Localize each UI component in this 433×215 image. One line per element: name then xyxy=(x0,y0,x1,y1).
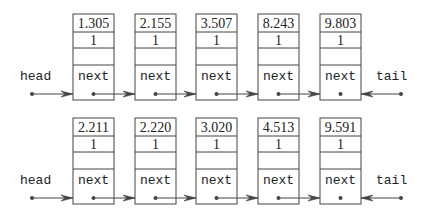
node-count: 1 xyxy=(337,137,344,152)
node-count: 1 xyxy=(275,33,282,48)
node-next-label: next xyxy=(140,69,171,84)
node-next-label: next xyxy=(325,69,356,84)
list-node: 8.2431next xyxy=(258,14,320,100)
node-count: 1 xyxy=(337,33,344,48)
next-pointer-dot xyxy=(339,196,343,200)
list-node: 2.1551next xyxy=(135,14,196,100)
node-value: 9.803 xyxy=(325,16,357,31)
list-node: 4.5131next xyxy=(258,118,320,204)
node-value: 9.591 xyxy=(325,120,357,135)
linked-lists-diagram: head1.3051next2.1551next3.5071next8.2431… xyxy=(0,0,433,215)
node-next-label: next xyxy=(201,69,232,84)
list-node: 9.8031next xyxy=(320,14,361,100)
node-next-label: next xyxy=(263,173,294,188)
node-next-label: next xyxy=(263,69,294,84)
list-node: 1.3051next xyxy=(73,14,135,100)
linked-list-2: head2.2111next2.2201next3.0201next4.5131… xyxy=(20,118,407,204)
node-count: 1 xyxy=(152,137,159,152)
list-node: 2.2201next xyxy=(135,118,196,204)
list-node: 9.5911next xyxy=(320,118,361,204)
node-value: 3.020 xyxy=(201,120,233,135)
node-next-label: next xyxy=(78,69,109,84)
node-value: 8.243 xyxy=(263,16,295,31)
node-count: 1 xyxy=(90,33,97,48)
node-count: 1 xyxy=(275,137,282,152)
node-value: 3.507 xyxy=(201,16,233,31)
node-count: 1 xyxy=(90,137,97,152)
list-node: 3.0201next xyxy=(196,118,258,204)
node-next-label: next xyxy=(78,173,109,188)
tail-label: tail xyxy=(376,69,407,84)
node-value: 2.220 xyxy=(140,120,172,135)
node-next-label: next xyxy=(325,173,356,188)
list-node: 3.5071next xyxy=(196,14,258,100)
node-count: 1 xyxy=(213,33,220,48)
diagram-canvas: head1.3051next2.1551next3.5071next8.2431… xyxy=(0,0,433,215)
node-value: 2.155 xyxy=(140,16,172,31)
list-node: 2.2111next xyxy=(73,118,135,204)
node-value: 4.513 xyxy=(263,120,295,135)
head-label: head xyxy=(20,173,51,188)
node-count: 1 xyxy=(213,137,220,152)
node-next-label: next xyxy=(140,173,171,188)
node-next-label: next xyxy=(201,173,232,188)
node-value: 2.211 xyxy=(78,120,109,135)
tail-label: tail xyxy=(376,173,407,188)
node-value: 1.305 xyxy=(78,16,110,31)
node-count: 1 xyxy=(152,33,159,48)
head-label: head xyxy=(20,69,51,84)
next-pointer-dot xyxy=(339,92,343,96)
linked-list-1: head1.3051next2.1551next3.5071next8.2431… xyxy=(20,14,407,100)
